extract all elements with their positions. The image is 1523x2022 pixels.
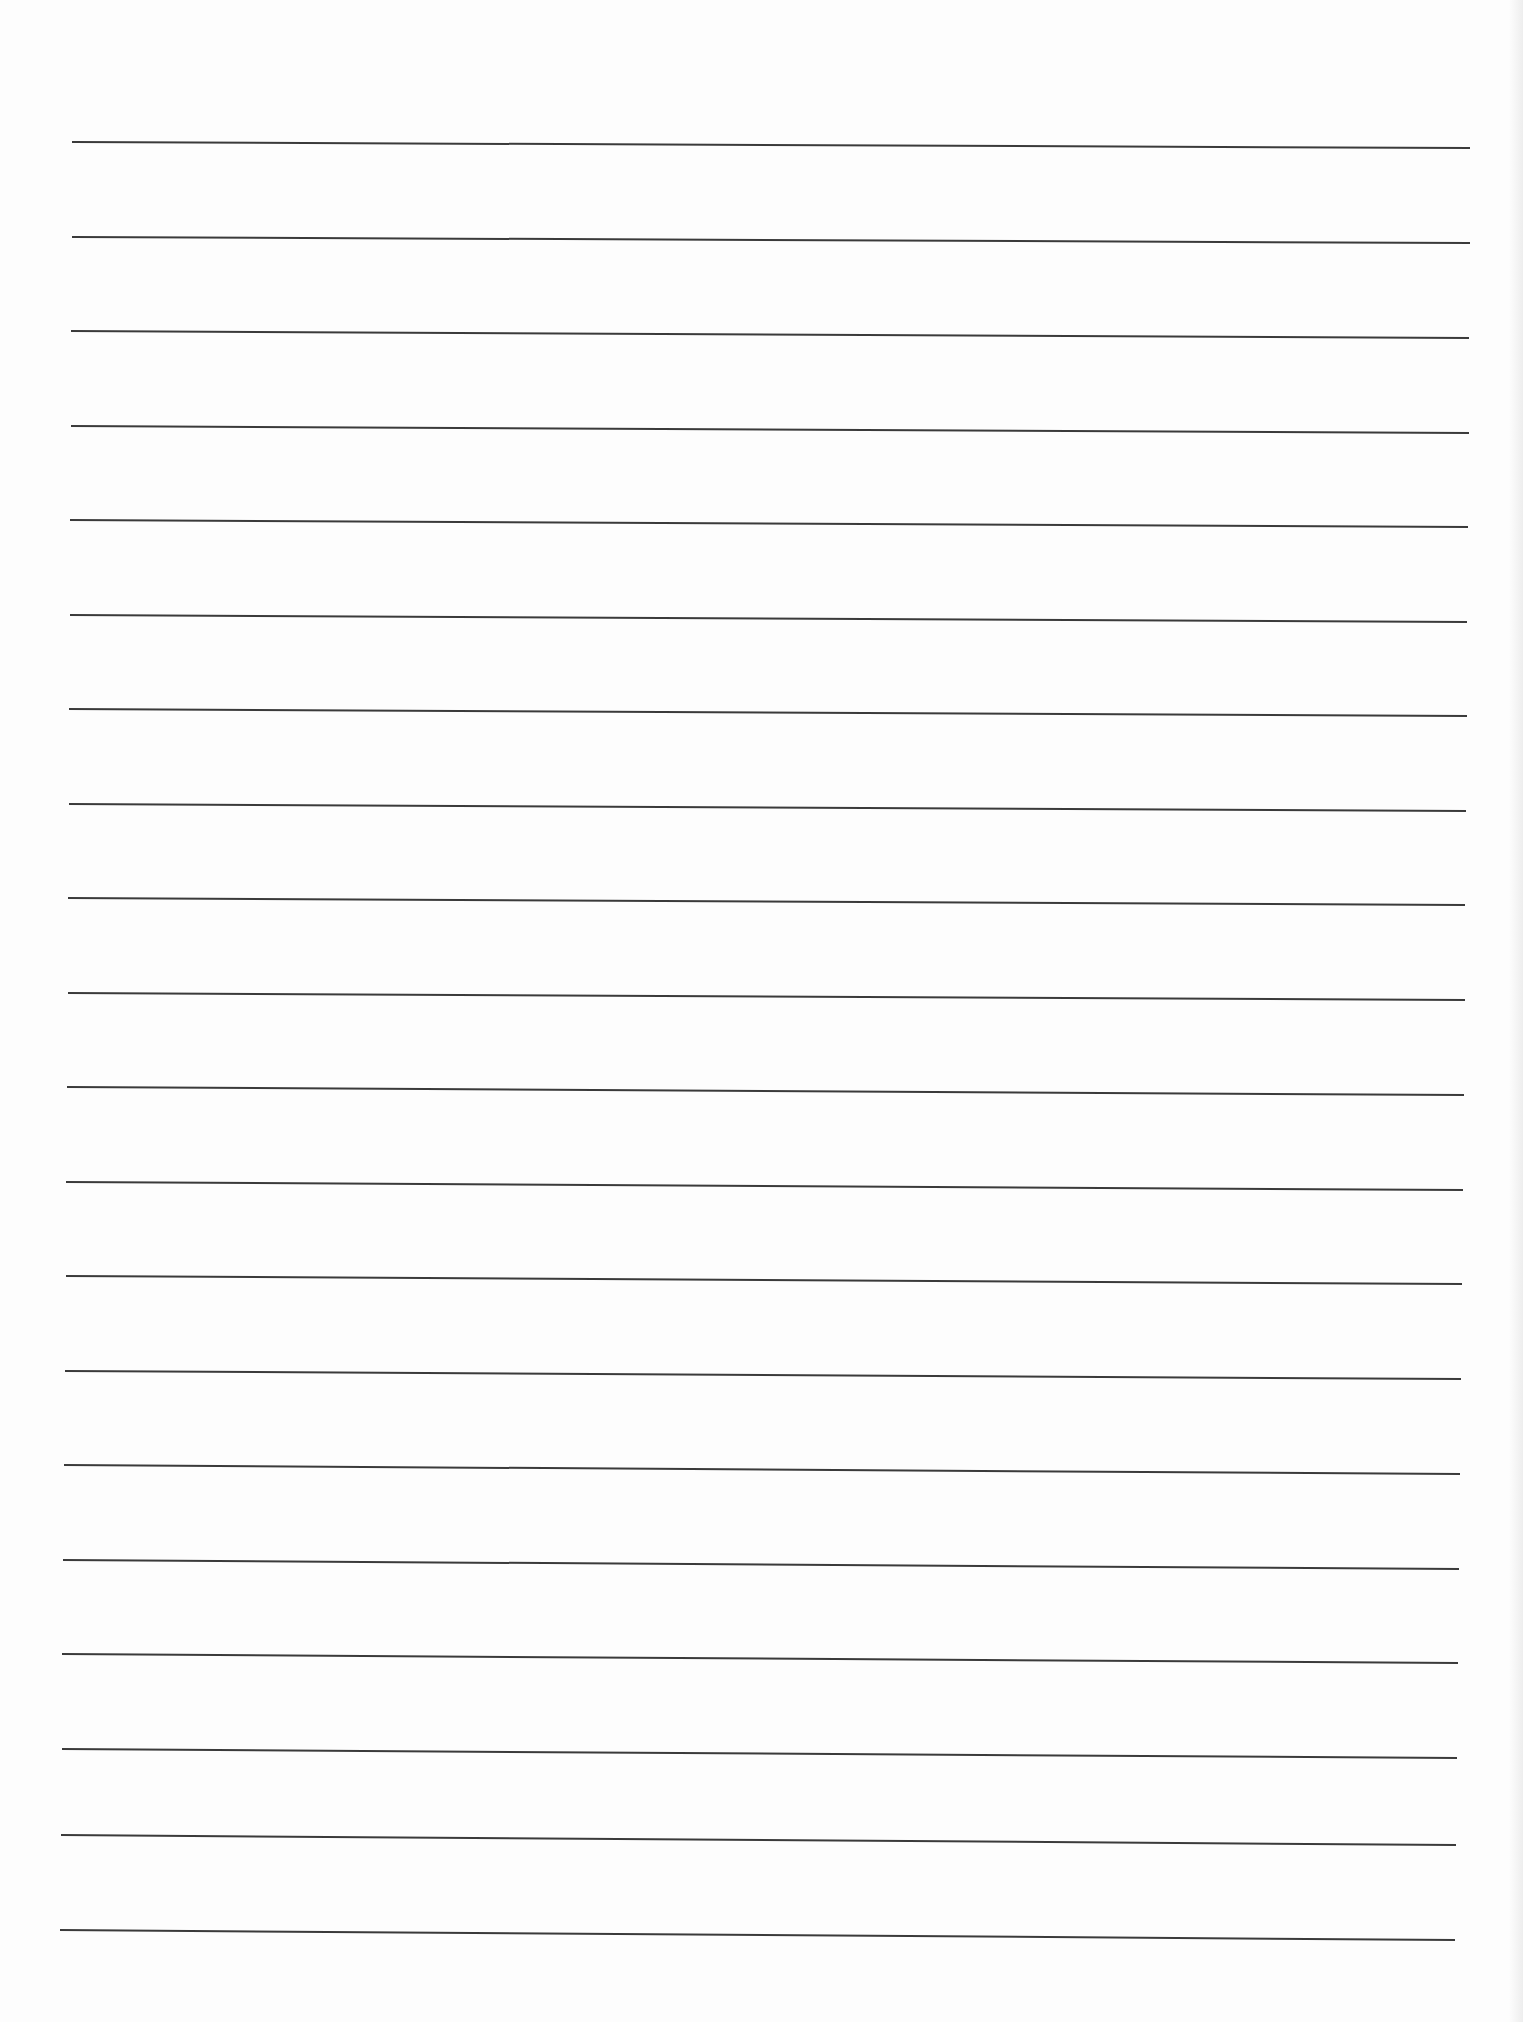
ruled-line-8 bbox=[69, 804, 1466, 811]
ruled-line-6 bbox=[70, 615, 1467, 622]
ruled-line-19 bbox=[61, 1835, 1456, 1845]
ruled-line-12 bbox=[66, 1182, 1463, 1190]
page-edge-shadow bbox=[1509, 0, 1523, 2022]
ruled-line-18 bbox=[62, 1749, 1457, 1758]
ruled-lines bbox=[0, 0, 1523, 2022]
ruled-line-2 bbox=[72, 237, 1470, 243]
ruled-line-7 bbox=[69, 709, 1467, 716]
ruled-line-13 bbox=[66, 1276, 1462, 1284]
ruled-line-4 bbox=[71, 426, 1469, 433]
ruled-page bbox=[0, 0, 1523, 2022]
ruled-line-1 bbox=[72, 142, 1470, 148]
ruled-line-9 bbox=[68, 898, 1465, 905]
ruled-line-16 bbox=[63, 1560, 1459, 1569]
ruled-line-14 bbox=[65, 1371, 1461, 1379]
ruled-line-3 bbox=[71, 331, 1469, 338]
ruled-line-10 bbox=[68, 993, 1465, 1000]
ruled-line-15 bbox=[64, 1465, 1460, 1474]
ruled-line-20 bbox=[60, 1930, 1455, 1940]
ruled-line-11 bbox=[67, 1087, 1464, 1095]
ruled-line-17 bbox=[62, 1654, 1458, 1663]
ruled-line-5 bbox=[70, 520, 1468, 527]
